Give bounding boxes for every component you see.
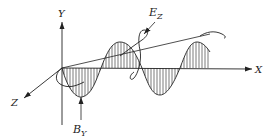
- y-axis-label: Y: [58, 8, 66, 19]
- electric-field-label: E Z: [144, 6, 163, 34]
- x-axis-label: X: [254, 64, 263, 75]
- em-wave-diagram: Y X Z: [0, 0, 271, 140]
- e-pointer-arrow: [144, 22, 155, 34]
- z-axis-label: Z: [10, 97, 19, 108]
- z-axis: [24, 68, 62, 98]
- electric-field-wave: [62, 30, 210, 110]
- b-label-sub: Y: [81, 129, 87, 138]
- e-label-main: E: [148, 6, 157, 19]
- b-label-main: B: [72, 123, 81, 136]
- e-label-sub: Z: [156, 12, 163, 21]
- magnetic-field-label: B Y: [72, 97, 87, 138]
